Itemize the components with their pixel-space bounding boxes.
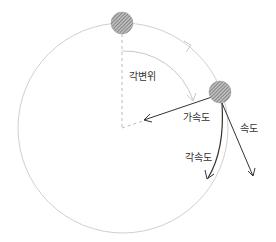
- angular-displacement-label: 각변위: [129, 72, 156, 82]
- ball-initial: [111, 12, 133, 34]
- velocity-label: 속도: [240, 124, 258, 134]
- orbit-direction-icon: [184, 41, 191, 52]
- diagram-canvas: [0, 0, 276, 242]
- radius-dashed-angled: [122, 121, 143, 128]
- acceleration-label: 가속도: [183, 113, 210, 123]
- ball-current: [209, 81, 231, 103]
- velocity-arrow: [222, 103, 253, 176]
- angular-acceleration-label: 각속도: [185, 153, 212, 163]
